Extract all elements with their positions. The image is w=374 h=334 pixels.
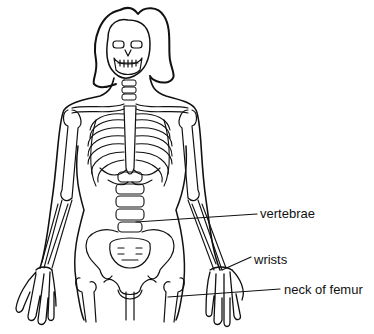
hand-right <box>206 267 243 327</box>
wrists-leader-line <box>222 257 251 270</box>
lumbar-spine <box>116 172 144 232</box>
skull <box>113 41 142 75</box>
label-vertebrae: vertebrae <box>260 207 315 220</box>
hand-left <box>16 267 56 325</box>
clavicles <box>72 104 188 113</box>
label-wrists: wrists <box>254 253 287 266</box>
face-outline <box>107 20 150 78</box>
skeleton-diagram: vertebrae wrists neck of femur <box>0 0 374 334</box>
femoral-midline <box>126 292 134 320</box>
sternum <box>124 106 136 174</box>
rib-cage <box>88 114 172 186</box>
label-neck-of-femur: neck of femur <box>284 283 363 296</box>
humerus-right <box>179 110 199 200</box>
cervical-spine <box>122 80 136 100</box>
pelvis <box>86 230 174 299</box>
